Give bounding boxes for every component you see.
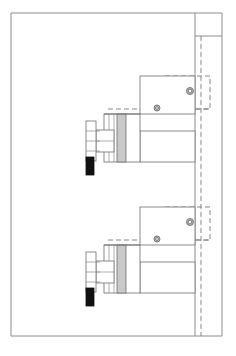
black-indicator-bar	[86, 288, 94, 306]
piston-seal-band	[117, 114, 126, 162]
piston-seal-band	[117, 245, 126, 293]
drawing-sheet	[0, 0, 236, 356]
mounting-block	[140, 207, 195, 245]
horizontal-arm	[140, 262, 195, 293]
technical-drawing-canvas	[0, 0, 236, 356]
bore-hole-small-inner	[156, 238, 159, 241]
mounting-block	[140, 76, 195, 114]
bore-hole-large-inner	[188, 220, 192, 224]
horizontal-arm	[140, 131, 195, 162]
black-indicator-bar	[86, 157, 94, 175]
bore-hole-small-inner	[156, 107, 159, 110]
lower-assembly	[86, 207, 210, 306]
bore-hole-large-inner	[188, 89, 192, 93]
upper-assembly	[86, 76, 210, 175]
